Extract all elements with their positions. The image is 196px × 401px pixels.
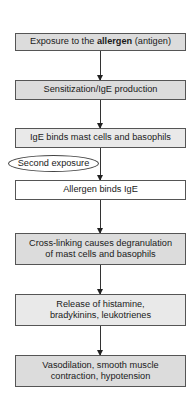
step-6-line-1: Release of histamine, [56,299,144,309]
arrow-step1-to-step2 [100,51,101,80]
second-exposure-label: Second exposure [18,158,90,169]
step-1-text-pre: Exposure to the [30,36,97,46]
step-allergen-binds-ige: Allergen binds IgE [15,180,186,200]
step-release-mediators: Release of histamine,bradykinins, leukot… [15,294,186,326]
step-5-text: Cross-linking causes degranulationof mas… [29,238,172,261]
step-vasodilation: Vasodilation, smooth musclecontraction, … [15,355,186,387]
arrow-step3-to-step4 [100,148,101,180]
step-ige-binds-mast-cells: IgE binds mast cells and basophils [15,128,186,148]
step-5-line-2: of mast cells and basophils [45,249,155,259]
step-7-text: Vasodilation, smooth musclecontraction, … [42,360,158,383]
step-cross-linking: Cross-linking causes degranulationof mas… [15,233,186,265]
step-7-line-1: Vasodilation, smooth muscle [42,360,158,370]
step-1-text-post: (antigen) [132,36,171,46]
step-3-text: IgE binds mast cells and basophils [30,132,171,144]
arrow-step2-to-step3 [100,100,101,128]
step-7-line-2: contraction, hypotension [51,371,151,381]
step-exposure-to-allergen: Exposure to the allergen (antigen) [15,33,186,51]
arrow-step6-to-step7 [100,326,101,355]
step-6-line-2: bradykinins, leukotrienes [50,310,151,320]
step-1-text-bold: allergen [97,36,132,46]
step-4-text: Allergen binds IgE [63,184,138,196]
step-5-line-1: Cross-linking causes degranulation [29,238,172,248]
step-1-text: Exposure to the allergen (antigen) [30,36,171,48]
step-sensitization: Sensitization/IgE production [15,80,186,100]
arrow-step4-to-step5 [100,200,101,233]
arrow-step5-to-step6 [100,265,101,294]
step-6-text: Release of histamine,bradykinins, leukot… [50,299,151,322]
second-exposure-ellipse: Second exposure [8,155,99,172]
step-2-text: Sensitization/IgE production [44,84,158,96]
